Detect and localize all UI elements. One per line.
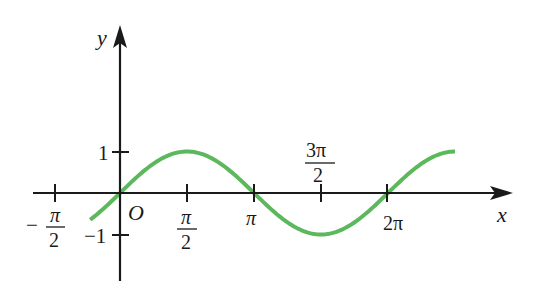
x-tick-label-pi: π xyxy=(246,207,257,229)
svg-text:−: − xyxy=(26,213,38,237)
x-tick-label-two-pi: 2π xyxy=(383,212,403,234)
x-tick-label-neg-half-pi: − π 2 xyxy=(26,204,65,251)
x-axis xyxy=(33,186,513,200)
svg-text:2: 2 xyxy=(181,231,191,253)
y-tick-label-one: 1 xyxy=(98,141,109,165)
svg-text:2: 2 xyxy=(313,164,323,186)
svg-text:2: 2 xyxy=(49,229,59,251)
y-tick-label-neg-one: −1 xyxy=(84,224,106,248)
y-axis-label: y xyxy=(95,25,107,50)
svg-text:π: π xyxy=(50,204,61,226)
x-tick-label-half-pi: π 2 xyxy=(177,206,197,253)
x-axis-label: x xyxy=(496,202,507,227)
svg-text:π: π xyxy=(181,206,192,228)
svg-text:3π: 3π xyxy=(306,139,326,161)
sine-chart: y x O 1 −1 − π 2 π 2 π 3π 2 2π xyxy=(0,0,534,304)
origin-label: O xyxy=(128,200,144,225)
x-tick-label-three-half-pi: 3π 2 xyxy=(305,139,335,186)
